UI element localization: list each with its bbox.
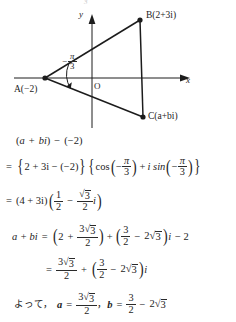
line1-minus: − bbox=[54, 135, 60, 147]
line1-a: a bbox=[20, 135, 25, 147]
line6-a-var: a bbox=[57, 299, 62, 311]
line3-half: 1 2 bbox=[54, 190, 63, 213]
equation-line-5: = 3√3 2 + ( 3 2 − 2√3 ) i bbox=[46, 257, 236, 281]
y-axis-label: y bbox=[79, 10, 83, 19]
line5-frac1-num: 3√3 bbox=[56, 257, 77, 270]
line3-i: i bbox=[93, 195, 96, 207]
sqrt-icon: √3 bbox=[63, 257, 75, 269]
line3-half-den: 2 bbox=[54, 202, 63, 213]
point-label-c: C(a+bi) bbox=[148, 112, 178, 122]
line2-cos-three: 3 bbox=[122, 167, 131, 178]
line3-half-num: 1 bbox=[54, 190, 63, 202]
line5-plus: + bbox=[81, 264, 87, 276]
complex-plane-diagram: 3 y x O A(−2) B(2+3i) C(a+bi) − π 3 bbox=[0, 0, 236, 132]
line3-equals: = bbox=[6, 195, 12, 207]
equation-line-6-conclusion: よって， a = 3√3 2 ， b = 3 2 − 2√3 bbox=[14, 292, 236, 316]
line4-two-sqrt3: 2√3 bbox=[144, 230, 161, 243]
x-axis-label: x bbox=[186, 76, 190, 85]
line4-paren1-open: ( bbox=[53, 229, 58, 244]
line4-plus-inner: + bbox=[67, 231, 73, 243]
line3-sqrt-num: √3 bbox=[77, 189, 93, 202]
line2-cos-paren-close: ) bbox=[132, 160, 137, 175]
conclusion-prefix: よって， bbox=[14, 299, 53, 309]
line6-a-fraction: 3√3 2 bbox=[76, 292, 97, 316]
line4-minus: − bbox=[134, 231, 140, 243]
line5-frac1-den: 2 bbox=[62, 271, 71, 282]
line3-sqrt-fraction: √3 2 bbox=[77, 189, 93, 213]
line5-fraction-1: 3√3 2 bbox=[56, 257, 77, 281]
line2-cos-paren-open: ( bbox=[110, 160, 115, 175]
equation-line-1: ( a + b i ) − (−2) bbox=[16, 135, 236, 147]
line6-a-den: 2 bbox=[82, 306, 91, 317]
line4-i: i bbox=[168, 231, 171, 243]
line6-a-equals: = bbox=[66, 299, 72, 311]
angle-minus-sign: − bbox=[62, 57, 67, 66]
line3-sqrt-den: 2 bbox=[80, 202, 89, 213]
line4-paren2-close: ) bbox=[163, 229, 168, 244]
sqrt-icon: √3 bbox=[126, 263, 138, 276]
worked-solution: ( a + b i ) − (−2) = { 2 + 3i − (−2) } {… bbox=[0, 132, 236, 317]
line2-brace-close-2: } bbox=[195, 160, 201, 174]
line5-equals: = bbox=[46, 264, 52, 276]
line2-sin-paren-close: ) bbox=[188, 160, 193, 175]
line2-brace-open-2: { bbox=[88, 160, 94, 174]
line1-minus-two: (−2) bbox=[64, 135, 82, 147]
vertex-dot-c bbox=[140, 114, 145, 119]
line5-frac2-den: 2 bbox=[97, 270, 106, 281]
y-axis bbox=[89, 14, 96, 128]
line4-frac2-den: 2 bbox=[121, 237, 130, 248]
line2-cos: cos bbox=[96, 161, 110, 173]
line4-minus-two: − 2 bbox=[175, 231, 189, 243]
line4-frac1-num: 3√3 bbox=[77, 224, 98, 237]
triangle-abc bbox=[45, 20, 143, 117]
line4-equals: = bbox=[42, 231, 48, 243]
line6-b-den: 2 bbox=[126, 305, 135, 316]
sqrt-icon: √3 bbox=[84, 224, 96, 236]
line6-minus: − bbox=[140, 299, 146, 311]
line2-inner: 2 + 3i − (−2) bbox=[25, 161, 79, 173]
line5-i: i bbox=[144, 264, 147, 276]
sqrt-icon: √3 bbox=[155, 298, 167, 311]
line2-brace-close: } bbox=[80, 160, 86, 174]
line4-paren1-close: ) bbox=[99, 229, 104, 244]
line2-sin-fraction: π 3 bbox=[178, 156, 187, 179]
line4-plus: + bbox=[107, 231, 113, 243]
line3-factor: (4 + 3i) bbox=[16, 195, 48, 207]
line6-b-equals: = bbox=[116, 299, 122, 311]
sqrt-icon: √3 bbox=[79, 189, 91, 201]
line2-isin: i sin bbox=[148, 161, 166, 173]
line4-lhs: a + bi bbox=[12, 231, 38, 243]
line2-sin-three: 3 bbox=[178, 167, 187, 178]
line2-brace-open: { bbox=[17, 160, 23, 174]
line4-fraction-2: 3 2 bbox=[121, 225, 130, 248]
x-axis bbox=[14, 75, 190, 82]
vertex-dot-a bbox=[42, 75, 47, 80]
line4-frac2-num: 3 bbox=[121, 225, 130, 237]
angle-label: − π 3 bbox=[62, 52, 77, 72]
diagram-svg bbox=[0, 0, 236, 132]
line1-close-paren: ) bbox=[47, 135, 51, 147]
line6-b-tail: 2√3 bbox=[149, 298, 166, 311]
line3-minus: − bbox=[67, 195, 73, 207]
equation-line-2: = { 2 + 3i − (−2) } { cos ( − π 3 ) + i … bbox=[6, 156, 236, 179]
page-number-artifact: 3 bbox=[84, 0, 88, 6]
line5-two-sqrt3: 2√3 bbox=[120, 263, 137, 276]
line5-paren-close: ) bbox=[139, 262, 144, 277]
line2-equals: = bbox=[6, 161, 12, 173]
line2-cos-fraction: π 3 bbox=[122, 156, 131, 179]
point-label-a: A(−2) bbox=[14, 85, 37, 95]
line3-paren-close: ) bbox=[97, 194, 102, 209]
origin-label: O bbox=[94, 82, 101, 91]
point-label-b: B(2+3i) bbox=[146, 11, 176, 21]
line4-fraction-1: 3√3 2 bbox=[77, 224, 98, 248]
line5-paren-open: ( bbox=[92, 262, 97, 277]
line5-minus: − bbox=[111, 264, 117, 276]
equation-line-4: a + bi = ( 2 + 3√3 2 ) + ( 3 2 − 2√3 ) i… bbox=[12, 224, 236, 248]
line6-comma: ， bbox=[97, 299, 107, 309]
line3-paren-open: ( bbox=[48, 194, 53, 209]
line6-a-num: 3√3 bbox=[76, 292, 97, 305]
line5-fraction-2: 3 2 bbox=[97, 258, 106, 281]
sqrt-icon: √3 bbox=[83, 292, 95, 304]
line4-paren2-open: ( bbox=[116, 229, 121, 244]
line4-two: 2 bbox=[58, 231, 63, 243]
